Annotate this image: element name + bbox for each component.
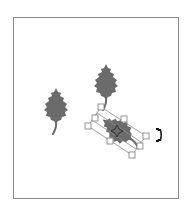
drawing-scene [0, 0, 190, 213]
resize-handle-right[interactable] [137, 143, 143, 149]
resize-handle-bottom-left[interactable] [85, 123, 91, 129]
resize-handle-bottom[interactable] [107, 138, 113, 144]
resize-handle-top[interactable] [121, 116, 127, 122]
resize-handle-bottom-right[interactable] [129, 152, 135, 158]
resize-handle-left[interactable] [92, 115, 98, 121]
holly-leaf-left[interactable] [44, 88, 68, 134]
holly-leaf-top[interactable] [94, 64, 118, 110]
resize-handle-top-left[interactable] [98, 104, 104, 110]
rotate-cursor-icon [156, 128, 162, 142]
resize-handle-top-right[interactable] [143, 133, 149, 139]
